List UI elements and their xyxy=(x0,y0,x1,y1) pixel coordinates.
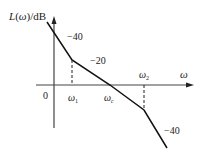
bode-diagram: L(ω)/dB ω 0 −40 −20 −40 ω1 ωc ω2 xyxy=(0,0,198,159)
omega2-label: ω2 xyxy=(139,69,149,81)
y-axis-arrow-icon xyxy=(52,16,57,24)
y-axis-label: L(ω)/dB xyxy=(8,10,46,23)
slope-label-low: −40 xyxy=(67,31,83,42)
slope-label-mid: −20 xyxy=(90,55,106,66)
x-axis-label: ω xyxy=(180,68,188,80)
omega1-label: ω1 xyxy=(68,92,78,104)
x-axis-arrow-icon xyxy=(186,83,194,88)
slope-label-high: −40 xyxy=(164,125,180,136)
origin-label: 0 xyxy=(43,90,48,101)
omegac-label: ωc xyxy=(104,92,114,104)
